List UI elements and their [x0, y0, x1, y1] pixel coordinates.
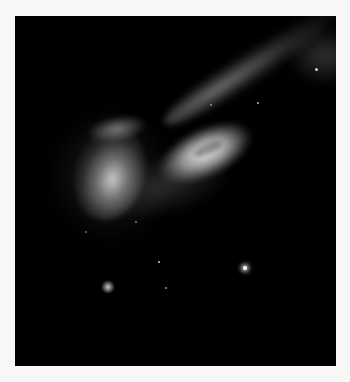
star [85, 231, 87, 233]
star [315, 68, 318, 71]
star [135, 221, 137, 223]
star [210, 104, 212, 106]
galaxy-photo [15, 16, 336, 366]
left-halo [45, 106, 175, 246]
bright-star [243, 266, 247, 270]
star [158, 261, 160, 263]
fuzzy-object [101, 280, 115, 294]
star [165, 287, 167, 289]
star [257, 102, 259, 104]
